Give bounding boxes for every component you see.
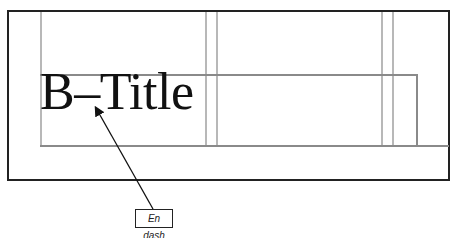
callout-label: En dash bbox=[135, 209, 173, 228]
callout-arrow bbox=[0, 0, 455, 238]
